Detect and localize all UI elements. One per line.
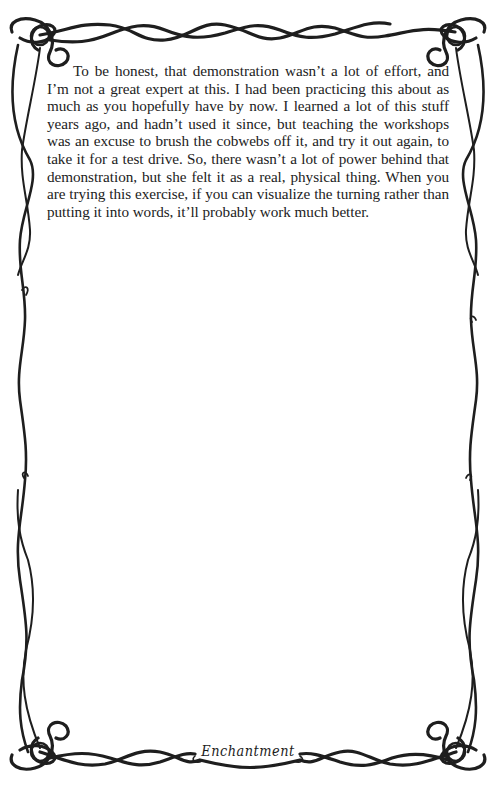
- celtic-knot-top-right-icon: [428, 19, 485, 66]
- body-text: To be honest, that demonstration wasn’t …: [47, 62, 449, 220]
- left-vine: [13, 45, 40, 752]
- book-page: To be honest, that demonstration wasn’t …: [0, 0, 496, 787]
- paragraph: To be honest, that demonstration wasn’t …: [47, 62, 449, 220]
- running-footer-title: Enchantment: [35, 742, 462, 760]
- right-vine: [456, 45, 483, 752]
- top-vine: [40, 23, 455, 42]
